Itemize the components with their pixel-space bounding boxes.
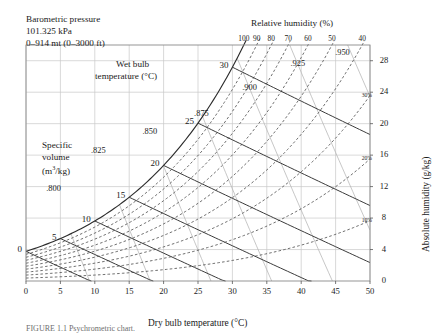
x-tick-label: 15	[125, 286, 134, 296]
x-tick-label: 40	[297, 286, 306, 296]
specific-volume-line	[277, 15, 370, 231]
rh-top-label: 90	[253, 34, 260, 43]
barometric-pressure-line-1: Barometric pressure	[26, 14, 100, 25]
wet-bulb-line	[198, 123, 370, 205]
wet-bulb-title-line-1: Wet bulb	[116, 59, 149, 70]
x-tick-label: 30	[228, 286, 237, 296]
specific-volume-label: .800	[46, 184, 61, 194]
specific-volume-label: .825	[91, 146, 106, 156]
rh-top-label: 40	[358, 34, 365, 43]
wet-bulb-line	[26, 251, 91, 281]
rh-side-label: 20%	[362, 155, 372, 162]
x-tick-label: 50	[366, 286, 375, 296]
wet-bulb-title-line-2: temperature (°C)	[95, 71, 157, 82]
wet-bulb-line	[129, 197, 311, 281]
x-tick-label: 5	[58, 286, 62, 296]
specific-volume-label: .925	[290, 59, 305, 69]
relative-humidity-curve	[26, 41, 334, 266]
y-tick-label: 0	[382, 275, 386, 285]
y-tick-label: 12	[380, 181, 389, 191]
rh-top-label: 60	[304, 34, 311, 43]
barometric-pressure-line-2: 101.325 kPa	[26, 26, 72, 37]
x-tick-label: 25	[194, 286, 203, 296]
y-tick-label: 28	[380, 55, 389, 65]
x-tick-label: 10	[91, 286, 100, 296]
x-axis-title: Dry bulb temperature (°C)	[148, 318, 247, 329]
specific-volume-label: .900	[242, 83, 257, 93]
specific-volume-label: .850	[143, 127, 158, 137]
x-tick-label: 35	[263, 286, 272, 296]
specific-volume-title-line-2: volume	[42, 152, 70, 163]
rh-axis-title: Relative humidity (%)	[251, 18, 333, 29]
wet-bulb-line	[95, 221, 226, 281]
rh-top-label: 50	[328, 34, 335, 43]
x-tick-label: 0	[24, 286, 28, 296]
wet-bulb-label: 10	[82, 214, 91, 225]
wet-bulb-label: 15	[116, 190, 125, 201]
x-tick-label: 20	[159, 286, 168, 296]
sv-unit-prefix: (m	[42, 166, 52, 176]
sv-unit-suffix: /kg)	[55, 166, 70, 176]
x-tick-label: 45	[331, 286, 340, 296]
figure-caption: FIGURE 1.1 Psychrometric chart.	[26, 324, 135, 334]
y-tick-label: 4	[382, 244, 386, 254]
wet-bulb-label: 20	[151, 158, 160, 169]
y-tick-label: 20	[380, 118, 389, 128]
rh-side-label: 30%	[362, 92, 372, 99]
wet-bulb-label: 0	[18, 244, 23, 255]
barometric-pressure-line-3: 0–914 mt (0–3000 ft)	[26, 38, 105, 49]
specific-volume-title-line-1: Specific	[42, 140, 72, 151]
rh-top-label: 80	[268, 34, 275, 43]
specific-volume-label: .950	[335, 48, 350, 58]
rh-top-label: 70	[284, 34, 291, 43]
specific-volume-title-line-3: (m3/kg)	[42, 164, 70, 177]
rh-side-label: 10%	[362, 217, 372, 224]
y-axis-title: Absolute humidity (g/kg)	[421, 157, 432, 252]
y-tick-label: 8	[382, 212, 386, 222]
rh-top-label: 100	[238, 34, 249, 43]
wet-bulb-label: 30	[219, 60, 228, 71]
psychrometric-chart-figure: Barometric pressure 101.325 kPa 0–914 mt…	[0, 0, 434, 334]
wet-bulb-label: 5	[52, 232, 57, 243]
specific-volume-label: .875	[194, 109, 209, 119]
y-tick-label: 16	[380, 149, 389, 159]
wet-bulb-label: 25	[185, 116, 194, 127]
y-tick-label: 24	[380, 86, 389, 96]
